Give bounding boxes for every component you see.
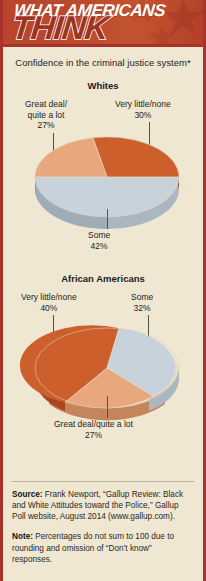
infographic-body: Confidence in the criminal justice syste… [3,47,203,581]
pie-chart-african-americans [3,322,206,426]
label-text: Great deal/ [25,99,67,109]
chart-block-whites: Great deal/ quite a lot 27% Very little/… [3,91,206,259]
label-aa-left: Very little/none 40% [21,292,77,313]
source-label: Source: [12,490,42,499]
label-value: 27% [85,430,102,440]
label-text: quite a lot [28,110,65,120]
header-title-line2: THINK [10,11,109,44]
label-value: 32% [134,303,151,313]
label-text: Very little/none [21,292,77,302]
leader-line-bottom [107,209,108,229]
label-text: Some [131,292,153,302]
pie-chart-whites [3,131,206,235]
pie-svg-african-americans [31,324,181,416]
source-note: Source: Frank Newport, “Gallup Review: B… [12,489,194,523]
label-text: Very little/none [115,99,171,109]
label-value: 30% [134,110,151,120]
label-text: Great deal/quite a lot [54,419,133,429]
chart-block-african-americans: Very little/none 40% Some 32% [3,284,206,449]
label-value: 27% [38,120,55,130]
general-note: Note: Percentages do not sum to 100 due … [12,531,194,565]
label-whites-right: Very little/none 30% [115,99,171,120]
label-whites-bottom: Some 42% [88,230,110,251]
label-text: Some [88,230,110,240]
chart-subtitle: Confidence in the criminal justice syste… [3,47,203,69]
footer-divider [12,481,194,482]
header-banner: ★ ★ ★ WHAT AMERICANS THINK [3,0,203,47]
label-value: 40% [40,303,57,313]
footer: Source: Frank Newport, “Gallup Review: B… [3,481,203,581]
infographic-page: ★ ★ ★ WHAT AMERICANS THINK Confidence in… [0,0,206,581]
group-title-whites: Whites [3,80,203,91]
group-title-african-americans: African Americans [3,273,203,284]
pie-svg-whites [31,133,181,225]
label-aa-bottom: Great deal/quite a lot 27% [54,419,133,440]
note-label: Note: [12,532,33,541]
label-whites-left: Great deal/ quite a lot 27% [25,99,67,131]
label-aa-right: Some 32% [131,292,153,313]
note-text: Percentages do not sum to 100 due to rou… [12,532,174,563]
leader-line-bottom [107,396,108,418]
label-value: 42% [91,241,108,251]
